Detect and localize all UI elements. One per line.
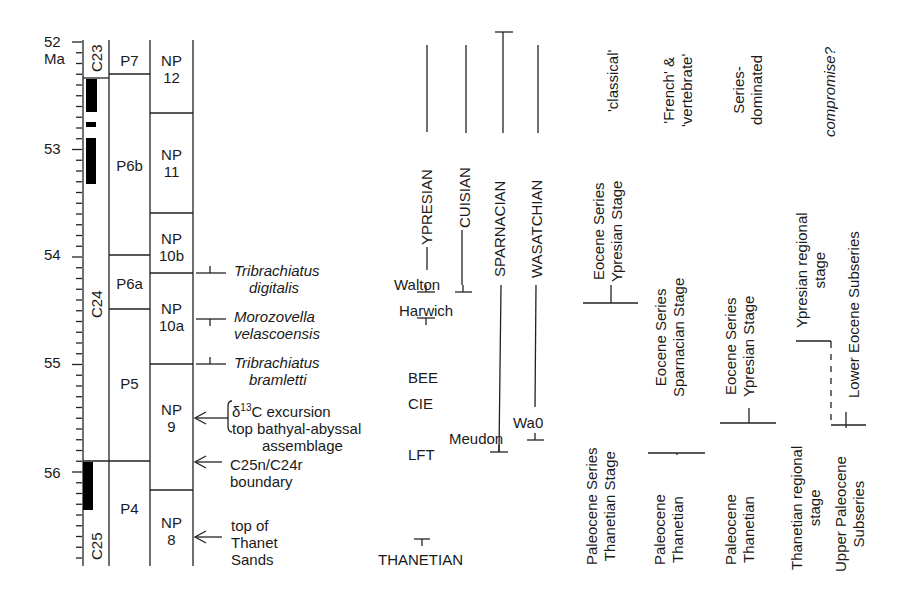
scheme-french-upper: Eocene Series Sparnacian Stage [652,278,688,397]
scheme-compromise-upper-b: Lower Eocene Subseries [845,231,863,398]
label-harwich: Harwich [399,302,453,319]
scheme-classical-lower: Paleocene Series Thanetian Stage [583,447,619,565]
label-bee: BEE [408,369,438,386]
stage-ypresian: YPRESIAN [418,169,435,245]
label-cie: CIE [408,395,433,412]
scheme-series-header: Series- dominated [730,55,766,125]
scheme-french-header: 'French' & 'vertebrate' [660,54,696,127]
event-carbon-isotope-excursion: δ13C excursion top bathyal-abyssal assem… [232,399,361,454]
stage-cuisian: CUISIAN [456,167,473,228]
zone-np10a: NP 10a [150,300,193,334]
zone-np8: NP 8 [150,514,193,548]
scheme-series-upper: Eocene Series Ypresian Stage [722,296,758,397]
chron-c23: C23 [88,44,105,72]
zone-np9: NP 9 [150,401,193,435]
label-meudon: Meudon [449,430,503,447]
scheme-classical-upper: Eocene Series Ypresian Stage [590,181,626,282]
zone-np11: NP 11 [150,146,193,180]
zone-p6b: P6b [109,157,150,174]
scheme-classical-header: 'classical' [604,50,622,112]
normal-polarity-block [86,122,96,127]
label-lft: LFT [408,446,435,463]
zone-p5: P5 [109,375,150,392]
scheme-french-lower: Paleocene Thanetian [651,494,687,565]
scheme-compromise-lower-a: Thanetian regional stage [788,446,824,570]
event-tribrachiatus-bramletti: Tribrachiatus bramletti [234,354,320,388]
zone-np12: NP 12 [150,52,193,86]
stage-thanetian: THANETIAN [378,551,463,568]
chron-c25: C25 [88,532,105,560]
event-top-thanet-sands: top of Thanet Sands [231,517,278,568]
normal-polarity-block [83,462,93,510]
zone-p6a: P6a [109,275,150,292]
scheme-compromise-upper-a: Ypresian regional stage [793,212,829,328]
stage-sparnacian: SPARNACIAN [491,181,508,277]
scheme-compromise-header: compromise? [821,47,839,137]
label-wa0: Wa0 [513,414,543,431]
normal-polarity-block [86,138,96,184]
label-walton: Walton [394,276,440,293]
stage-wasatchian: WASATCHIAN [528,180,545,278]
event-tribrachiatus-digitalis: Tribrachiatus digitalis [234,262,320,296]
scheme-compromise-lower-b: Upper Paleocene Subseries [832,456,868,572]
event-morozovella-velascoensis: Morozovella velascoensis [234,308,320,342]
zone-p7: P7 [109,52,150,69]
normal-polarity-block [86,79,97,112]
zone-np10b: NP 10b [150,230,193,264]
zone-p4: P4 [109,500,150,517]
scheme-series-lower: Paleocene Thanetian [722,494,758,565]
chron-c24: C24 [88,290,105,318]
event-c25n-c24r-boundary: C25n/C24r boundary [230,456,303,490]
